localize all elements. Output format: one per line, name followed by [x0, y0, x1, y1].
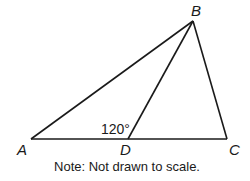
angle-label: 120°	[101, 121, 130, 137]
segment-bc	[193, 21, 227, 139]
vertex-label-c: C	[229, 141, 240, 158]
triangle-diagram: B A D C 120° Note: Not drawn to scale.	[0, 0, 250, 181]
scale-note: Note: Not drawn to scale.	[54, 159, 200, 174]
vertex-label-a: A	[16, 141, 27, 158]
vertex-label-d: D	[120, 141, 131, 158]
segment-bd	[128, 21, 193, 139]
vertex-label-b: B	[191, 2, 201, 19]
